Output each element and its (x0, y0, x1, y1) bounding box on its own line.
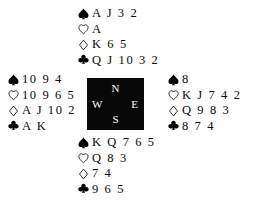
club-suit-icon (78, 54, 91, 66)
compass-north-label: N (112, 83, 120, 94)
south-hearts-cards: Q 8 3 (91, 151, 128, 167)
west-clubs-cards: A K (21, 119, 47, 135)
diamond-suit-icon (168, 105, 181, 117)
west-spades-row: 10 9 4 (8, 72, 76, 88)
east-clubs-cards: 8 7 4 (181, 119, 215, 135)
heart-suit-icon (8, 89, 21, 101)
west-diamonds-row: A J 10 2 (8, 103, 76, 119)
diamond-suit-icon (8, 105, 21, 117)
west-hearts-row: 10 9 6 5 (8, 88, 76, 104)
south-clubs-cards: 9 6 5 (91, 182, 125, 198)
east-hearts-cards: K J 7 4 2 (181, 88, 242, 104)
south-spades-row: K Q 7 6 5 (78, 135, 156, 151)
compass-west-label: W (92, 99, 102, 110)
south-diamonds-cards: 7 4 (91, 166, 112, 182)
west-hand: 10 9 4 10 9 6 5 A J 10 2 A K (8, 72, 76, 134)
north-clubs-cards: Q J 10 3 2 (91, 53, 159, 69)
spade-suit-icon (78, 137, 91, 149)
east-diamonds-cards: Q 9 8 3 (181, 103, 230, 119)
west-spades-cards: 10 9 4 (21, 72, 63, 88)
club-suit-icon (168, 120, 181, 132)
east-spades-cards: 8 (181, 72, 190, 88)
north-hearts-row: A (78, 22, 159, 38)
diamond-suit-icon (78, 168, 91, 180)
west-hearts-cards: 10 9 6 5 (21, 88, 75, 104)
east-spades-row: 8 (168, 72, 242, 88)
club-suit-icon (78, 183, 91, 195)
south-clubs-row: 9 6 5 (78, 182, 156, 198)
compass-south-label: S (112, 114, 118, 125)
club-suit-icon (8, 120, 21, 132)
north-hearts-cards: A (91, 22, 103, 38)
heart-suit-icon (168, 89, 181, 101)
spade-suit-icon (78, 8, 91, 20)
east-hand: 8 K J 7 4 2 Q 9 8 3 8 7 4 (168, 72, 242, 134)
east-hearts-row: K J 7 4 2 (168, 88, 242, 104)
west-diamonds-cards: A J 10 2 (21, 103, 76, 119)
south-hand: K Q 7 6 5 Q 8 3 7 4 9 6 5 (78, 135, 156, 197)
bridge-hand-diagram: A J 3 2 A K 6 5 Q J 10 3 2 10 9 4 (0, 0, 255, 214)
compass-box: N W E S (87, 78, 144, 130)
diamond-suit-icon (78, 39, 91, 51)
south-diamonds-row: 7 4 (78, 166, 156, 182)
east-clubs-row: 8 7 4 (168, 119, 242, 135)
north-spades-cards: A J 3 2 (91, 6, 138, 22)
heart-suit-icon (78, 23, 91, 35)
south-spades-cards: K Q 7 6 5 (91, 135, 156, 151)
south-hearts-row: Q 8 3 (78, 151, 156, 167)
spade-suit-icon (8, 74, 21, 86)
north-diamonds-row: K 6 5 (78, 37, 159, 53)
heart-suit-icon (78, 152, 91, 164)
spade-suit-icon (168, 74, 181, 86)
north-hand: A J 3 2 A K 6 5 Q J 10 3 2 (78, 6, 159, 68)
east-diamonds-row: Q 9 8 3 (168, 103, 242, 119)
west-clubs-row: A K (8, 119, 76, 135)
north-spades-row: A J 3 2 (78, 6, 159, 22)
north-diamonds-cards: K 6 5 (91, 37, 128, 53)
north-clubs-row: Q J 10 3 2 (78, 53, 159, 69)
compass-east-label: E (131, 99, 138, 110)
